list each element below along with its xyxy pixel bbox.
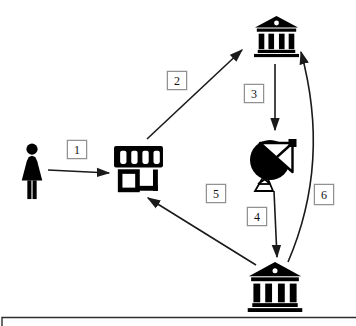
arrow-1-person-to-store	[48, 170, 109, 173]
edge-label-2: 2	[167, 71, 187, 90]
bank-icon	[254, 11, 299, 62]
edge-label-6: 6	[314, 184, 334, 205]
storefront-icon	[113, 143, 164, 194]
satellite-dish-icon	[246, 136, 301, 192]
bottom-panel-frame	[2, 318, 356, 326]
diagram-canvas: 1 2 3 4 5 6	[0, 0, 356, 326]
arrow-5-bank-to-store	[148, 198, 256, 265]
person-woman-icon	[18, 140, 46, 204]
edge-label-5: 5	[206, 184, 226, 203]
edge-label-1: 1	[67, 140, 87, 159]
bank-icon	[246, 262, 304, 312]
arrow-2-store-to-bank	[147, 50, 242, 139]
edge-label-4: 4	[247, 207, 267, 226]
arrow-4-satellite-to-bank	[274, 191, 277, 257]
edge-label-3: 3	[244, 84, 264, 103]
